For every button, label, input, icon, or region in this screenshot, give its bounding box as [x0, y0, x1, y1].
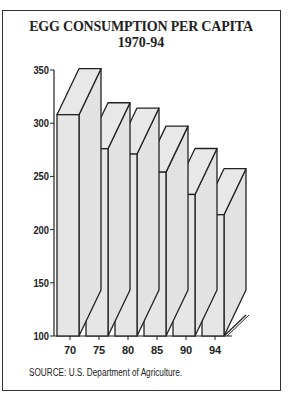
y-tick-label: 200	[33, 224, 49, 236]
x-tick-label: 80	[122, 344, 134, 356]
x-tick-label: 75	[93, 344, 105, 356]
bar-chart-plot: 350300250200150100949085807570	[0, 0, 297, 399]
y-tick-label: 250	[33, 171, 49, 183]
y-tick-label: 300	[33, 118, 49, 130]
y-tick-label: 350	[33, 64, 49, 76]
x-tick-label: 70	[64, 344, 76, 356]
source-note: SOURCE: U.S. Department of Agriculture.	[29, 367, 182, 378]
y-tick-label: 150	[33, 277, 49, 289]
bar-front	[57, 115, 79, 336]
x-tick-label: 90	[180, 344, 192, 356]
y-tick-label: 100	[33, 330, 49, 342]
x-tick-label: 85	[151, 344, 163, 356]
x-tick-label: 94	[209, 344, 222, 356]
